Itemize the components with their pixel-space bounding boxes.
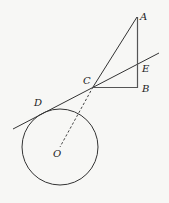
label-c: C — [83, 75, 91, 86]
segment-ac — [93, 17, 137, 87]
label-e: E — [141, 63, 150, 74]
geometry-diagram: A E B C D O — [0, 0, 169, 203]
label-a: A — [139, 11, 147, 22]
label-b: B — [141, 83, 149, 94]
label-d: D — [33, 97, 42, 108]
label-o: O — [53, 148, 61, 159]
